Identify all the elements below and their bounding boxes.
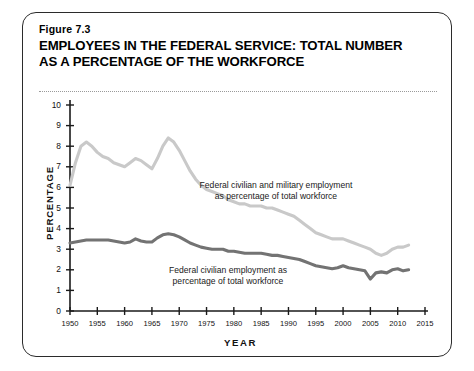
figure-card: Figure 7.3 EMPLOYEES IN THE FEDERAL SERV… [22,12,452,357]
figure-title: EMPLOYEES IN THE FEDERAL SERVICE: TOTAL … [39,38,437,69]
header-divider [39,91,437,92]
figure-title-line-2: AS A PERCENTAGE OF THE WORKFORCE [39,54,304,69]
figure-number: Figure 7.3 [39,23,437,35]
figure-title-line-1: EMPLOYEES IN THE FEDERAL SERVICE: TOTAL … [39,38,402,53]
figure-header: Figure 7.3 EMPLOYEES IN THE FEDERAL SERV… [39,23,437,69]
